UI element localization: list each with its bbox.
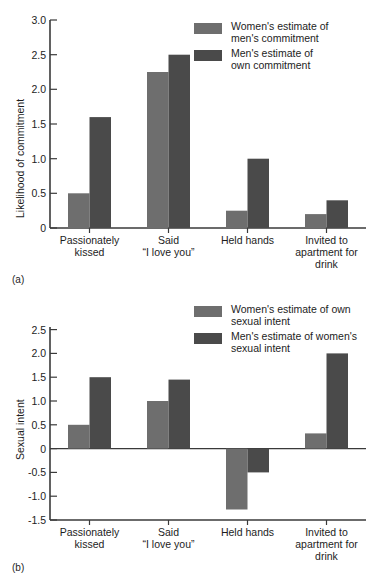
- panel-label-a: (a): [12, 274, 24, 285]
- y-tick-label: 1.0: [2, 153, 46, 165]
- bar-light: [226, 449, 248, 510]
- y-ticks-b: [50, 330, 57, 520]
- panel-label-b: (b): [12, 562, 24, 573]
- y-tick-label: 2.0: [2, 347, 46, 359]
- bar-dark: [90, 377, 112, 448]
- y-tick-label: 0.5: [2, 187, 46, 199]
- y-tick-label: -1.5: [2, 514, 46, 526]
- bar-dark: [248, 159, 270, 228]
- bar-dark: [248, 449, 270, 473]
- chart-panel-b: Sexual intent Women's estimate of own se…: [0, 292, 376, 584]
- y-tick-label: 2.0: [2, 83, 46, 95]
- y-tick-label: 1.5: [2, 118, 46, 130]
- x-category-label: Passionately kissed: [42, 234, 137, 258]
- y-tick-label: 1.5: [2, 371, 46, 383]
- bar-light: [68, 193, 90, 228]
- bar-light: [147, 72, 169, 228]
- bar-dark: [169, 55, 191, 228]
- bar-dark: [90, 117, 112, 228]
- y-tick-label: 0.5: [2, 419, 46, 431]
- x-category-label: Held hands: [204, 234, 291, 246]
- y-tick-label: -0.5: [2, 466, 46, 478]
- bar-light: [226, 211, 248, 228]
- bar-light: [305, 214, 327, 228]
- x-category-label: Said “I love you”: [124, 526, 213, 550]
- y-tick-label: 0: [2, 443, 46, 455]
- bars-a: [68, 55, 348, 228]
- chart-panel-a: Likelihood of commitment Women's estimat…: [0, 0, 376, 292]
- x-category-label: Held hands: [204, 526, 291, 538]
- y-ticks-a: [50, 20, 57, 228]
- x-category-label: Invited to apartment for drink: [281, 526, 372, 562]
- bar-dark: [327, 200, 349, 228]
- y-tick-label: 1.0: [2, 395, 46, 407]
- x-category-label: Invited to apartment for drink: [281, 234, 372, 270]
- y-tick-label: 0: [2, 222, 46, 234]
- bar-dark: [327, 353, 349, 448]
- y-tick-label: 3.0: [2, 14, 46, 26]
- bar-dark: [169, 380, 191, 449]
- bars-b: [68, 353, 348, 509]
- bar-light: [147, 401, 169, 449]
- x-category-label: Said “I love you”: [124, 234, 213, 258]
- y-tick-label: 2.5: [2, 324, 46, 336]
- x-category-label: Passionately kissed: [42, 526, 137, 550]
- y-tick-label: 2.5: [2, 49, 46, 61]
- bar-light: [68, 425, 90, 449]
- y-tick-label: -1.0: [2, 490, 46, 502]
- bar-light: [305, 433, 327, 448]
